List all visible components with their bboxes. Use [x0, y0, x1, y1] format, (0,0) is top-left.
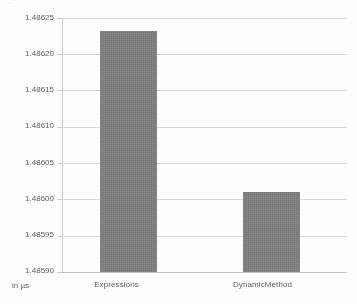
y-tick-label: 1.48610: [2, 122, 54, 130]
category-label-dynamicmethod: DynamicMethod: [215, 280, 310, 289]
y-axis-unit-label: in µs: [12, 281, 29, 290]
bar-expressions[interactable]: [100, 31, 157, 272]
y-tick-label: 1.48620: [2, 50, 54, 58]
plot-area: [62, 18, 347, 272]
bar-chart: 1.48625 1.48620 1.48615 1.48610 1.48605 …: [0, 0, 357, 307]
y-tick-label: 1.48615: [2, 86, 54, 94]
y-tick-label: 1.48595: [2, 231, 54, 239]
bar-dynamicmethod[interactable]: [243, 192, 300, 272]
y-tick-label: 1.48605: [2, 159, 54, 167]
y-tick-label: 1.48625: [2, 14, 54, 22]
y-tick-label: 1.48590: [2, 267, 54, 275]
gridline: [62, 18, 347, 19]
x-axis-baseline: [62, 272, 347, 273]
y-tick-label: 1.48600: [2, 195, 54, 203]
category-label-expressions: Expressions: [69, 280, 164, 289]
